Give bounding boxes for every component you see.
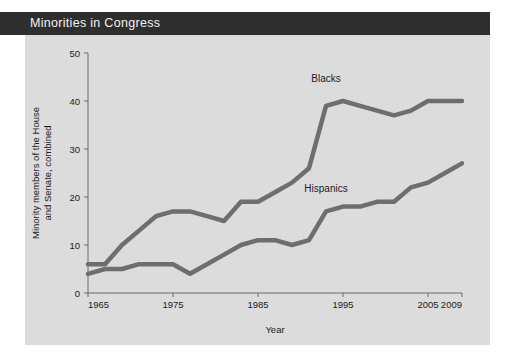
y-tick-label: 20 bbox=[69, 192, 80, 203]
series-line-hispanics bbox=[88, 163, 462, 273]
y-axis-title: Minority members of the Houseand Senate,… bbox=[30, 107, 53, 239]
series-label-hispanics: Hispanics bbox=[304, 183, 347, 194]
y-tick-label: 40 bbox=[69, 96, 80, 107]
x-tick-label: 1995 bbox=[332, 299, 353, 310]
y-tick-label: 30 bbox=[69, 144, 80, 155]
series-group: BlacksHispanics bbox=[88, 73, 462, 274]
line-chart-plot: 01020304050196519751985199520052009 Blac… bbox=[0, 0, 508, 361]
series-label-blacks: Blacks bbox=[311, 73, 340, 84]
x-tick-label: 2009 bbox=[441, 299, 462, 310]
x-tick-label: 1965 bbox=[88, 299, 109, 310]
x-axis-title: Year bbox=[265, 324, 284, 335]
y-tick-label: 10 bbox=[69, 240, 80, 251]
y-axis-title-line: and Senate, combined bbox=[42, 125, 53, 220]
x-tick-label: 1985 bbox=[247, 299, 268, 310]
axis-title-group: YearMinority members of the Houseand Sen… bbox=[30, 107, 285, 335]
axes-group: 01020304050196519751985199520052009 bbox=[69, 48, 462, 311]
x-tick-label: 1975 bbox=[162, 299, 183, 310]
chart-figure: Minorities in Congress 01020304050196519… bbox=[0, 0, 508, 361]
y-tick-label: 0 bbox=[75, 288, 80, 299]
y-tick-label: 50 bbox=[69, 48, 80, 59]
y-axis-title-line: Minority members of the House bbox=[30, 107, 41, 239]
x-tick-label: 2005 bbox=[417, 299, 438, 310]
